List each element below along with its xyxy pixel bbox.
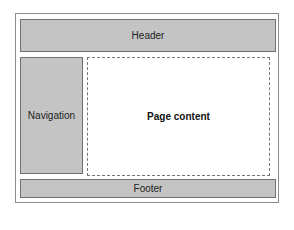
header-region: Header — [20, 19, 276, 52]
page-content-label: Page content — [147, 111, 210, 122]
navigation-label: Navigation — [28, 110, 75, 121]
footer-region: Footer — [20, 179, 276, 198]
page-content-region: Page content — [87, 57, 270, 176]
footer-label: Footer — [134, 183, 163, 194]
navigation-region: Navigation — [20, 57, 83, 174]
header-label: Header — [132, 30, 165, 41]
